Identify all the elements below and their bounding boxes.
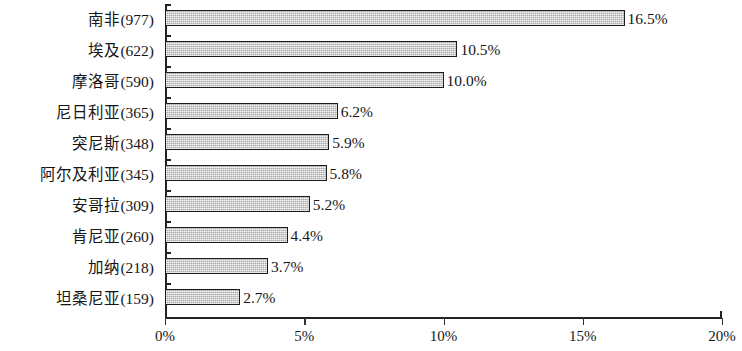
bar-value-3: 6.2% xyxy=(338,103,373,119)
bar-5 xyxy=(165,165,327,181)
category-label-3: 尼日利亚(365) xyxy=(56,105,154,121)
y-tick-8 xyxy=(165,283,171,285)
plot-area: 16.5% 10.5% 10.0% 6.2% 5.9% 5.8% 5.2% 4.… xyxy=(165,0,722,318)
bar-value-1: 10.5% xyxy=(457,41,500,57)
y-tick-4 xyxy=(165,159,171,161)
y-axis-top-cap xyxy=(165,4,171,6)
x-tick-label-4: 20% xyxy=(708,328,736,345)
category-label-6: 安哥拉(309) xyxy=(72,198,154,214)
x-tick-label-2: 10% xyxy=(430,328,458,345)
y-tick-6 xyxy=(165,221,171,223)
category-label-8: 加纳(218) xyxy=(88,260,154,276)
category-axis: 南非(977) 埃及(622) 摩洛哥(590) 尼日利亚(365) 突尼斯(3… xyxy=(0,0,160,318)
bar-value-8: 3.7% xyxy=(268,258,303,274)
category-label-1: 埃及(622) xyxy=(88,43,154,59)
bar-value-0: 16.5% xyxy=(625,10,668,26)
y-tick-2 xyxy=(165,97,171,99)
x-tick-3 xyxy=(583,318,584,325)
x-tick-2 xyxy=(444,318,445,325)
bar-chart: 南非(977) 埃及(622) 摩洛哥(590) 尼日利亚(365) 突尼斯(3… xyxy=(0,0,742,351)
bar-9 xyxy=(165,289,240,305)
y-tick-1 xyxy=(165,66,171,68)
y-tick-7 xyxy=(165,252,171,254)
category-label-5: 阿尔及利亚(345) xyxy=(40,167,154,183)
bar-4 xyxy=(165,134,329,150)
bar-value-7: 4.4% xyxy=(288,227,323,243)
bar-6 xyxy=(165,196,310,212)
bar-value-5: 5.8% xyxy=(327,165,362,181)
x-tick-4 xyxy=(722,318,723,325)
bar-7 xyxy=(165,227,288,243)
x-tick-1 xyxy=(304,318,305,325)
bar-3 xyxy=(165,103,338,119)
y-tick-3 xyxy=(165,128,171,130)
category-label-2: 摩洛哥(590) xyxy=(72,74,154,90)
category-label-9: 坦桑尼亚(159) xyxy=(56,291,154,307)
category-label-4: 突尼斯(348) xyxy=(72,136,154,152)
x-tick-0 xyxy=(165,318,166,325)
bar-0 xyxy=(165,10,625,26)
x-axis-right-cap xyxy=(720,311,722,318)
bar-value-6: 5.2% xyxy=(310,196,345,212)
category-label-0: 南非(977) xyxy=(88,12,154,28)
x-tick-label-3: 15% xyxy=(569,328,597,345)
y-tick-5 xyxy=(165,190,171,192)
bar-1 xyxy=(165,41,457,57)
y-tick-0 xyxy=(165,35,171,37)
x-tick-label-1: 5% xyxy=(294,328,314,345)
bar-value-2: 10.0% xyxy=(444,72,487,88)
category-label-7: 肯尼亚(260) xyxy=(72,229,154,245)
bar-value-9: 2.7% xyxy=(240,289,275,305)
x-tick-label-0: 0% xyxy=(155,328,175,345)
bar-8 xyxy=(165,258,268,274)
bar-2 xyxy=(165,72,444,88)
bar-value-4: 5.9% xyxy=(329,134,364,150)
